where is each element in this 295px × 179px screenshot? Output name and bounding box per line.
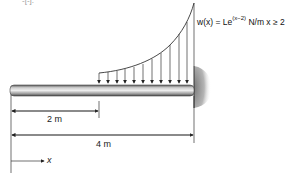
formula-lhs: w(x) = Le	[197, 17, 232, 27]
beam	[10, 85, 194, 96]
formula-condition: x ≥ 2	[264, 17, 285, 27]
beam-diagram-svg	[0, 0, 295, 179]
formula-units: N/m	[246, 17, 264, 27]
cropped-caption-text: -[-].	[22, 0, 34, 5]
beam-diagram: -[-]. w(x) = Le(x−2) N/m x ≥ 2 2 m 4 m x	[0, 0, 295, 179]
load-curve	[99, 3, 194, 73]
dimension-4m	[12, 96, 194, 143]
formula-exponent: (x−2)	[232, 15, 246, 21]
wall-support	[194, 66, 211, 108]
dimension-label-4m: 4 m	[96, 140, 111, 149]
load-formula: w(x) = Le(x−2) N/m x ≥ 2	[197, 16, 285, 27]
x-axis-label: x	[47, 156, 52, 165]
dimension-label-2m: 2 m	[47, 115, 62, 124]
